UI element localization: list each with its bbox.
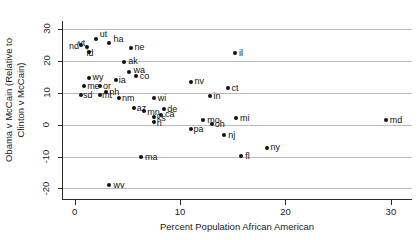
scatter-point-label: vt bbox=[78, 39, 85, 48]
x-axis-title: Percent Population African American bbox=[62, 221, 412, 232]
scatter-point bbox=[94, 37, 98, 41]
x-axis-line bbox=[62, 199, 412, 200]
scatter-point bbox=[114, 78, 118, 82]
scatter-point-label: nm bbox=[122, 94, 135, 103]
scatter-point-label: pa bbox=[194, 125, 204, 134]
scatter-point-label: ri bbox=[157, 119, 162, 128]
y-tick-label: 0 bbox=[40, 122, 51, 127]
scatter-point bbox=[142, 109, 146, 113]
scatter-point bbox=[265, 146, 269, 150]
scatter-point-label: ny bbox=[271, 143, 281, 152]
scatter-point bbox=[208, 94, 212, 98]
x-tick-mark bbox=[75, 200, 76, 205]
scatter-plot-figure: Obama v McCain (Relative to Clinton v Mc… bbox=[0, 0, 420, 240]
x-tick-mark bbox=[180, 200, 181, 205]
scatter-point-label: oh bbox=[215, 120, 225, 129]
scatter-point-label: wi bbox=[158, 94, 167, 103]
scatter-point bbox=[226, 86, 230, 90]
y-tick-mark bbox=[58, 29, 63, 30]
scatter-point-label: fl bbox=[245, 152, 250, 161]
scatter-point-label: ne bbox=[135, 43, 145, 52]
scatter-point bbox=[152, 115, 156, 119]
gridline-y bbox=[62, 125, 412, 126]
y-tick-mark bbox=[58, 157, 63, 158]
scatter-point-label: id bbox=[86, 49, 93, 58]
scatter-point-label: ha bbox=[113, 35, 123, 44]
x-tick-mark bbox=[285, 200, 286, 205]
scatter-point bbox=[152, 96, 156, 100]
scatter-point-label: nj bbox=[228, 131, 235, 140]
scatter-point-label: ct bbox=[232, 84, 239, 93]
scatter-point-label: ca bbox=[165, 110, 175, 119]
scatter-point bbox=[139, 155, 143, 159]
y-axis-title-line-1: Obama v McCain (Relative to bbox=[3, 38, 14, 162]
scatter-point bbox=[189, 127, 193, 131]
y-tick-label: -10 bbox=[40, 150, 51, 164]
scatter-point bbox=[222, 133, 226, 137]
scatter-point bbox=[134, 74, 138, 78]
y-axis-title: Obama v McCain (Relative to Clinton v Mc… bbox=[0, 0, 28, 200]
scatter-point bbox=[117, 96, 121, 100]
x-tick-label: 10 bbox=[165, 206, 195, 217]
scatter-point-label: il bbox=[239, 49, 243, 58]
y-tick-label: 10 bbox=[40, 87, 51, 98]
scatter-point-label: in bbox=[214, 92, 221, 101]
scatter-point-label: md bbox=[390, 116, 403, 125]
scatter-point bbox=[87, 76, 91, 80]
scatter-point-label: wv bbox=[113, 181, 124, 190]
x-tick-label: 20 bbox=[270, 206, 300, 217]
scatter-point-label: nv bbox=[195, 77, 205, 86]
y-tick-mark bbox=[58, 125, 63, 126]
scatter-point-label: co bbox=[140, 72, 150, 81]
scatter-point bbox=[98, 84, 102, 88]
scatter-point bbox=[122, 60, 126, 64]
y-tick-label: -20 bbox=[40, 182, 51, 196]
scatter-point-label: ma bbox=[145, 153, 158, 162]
scatter-point bbox=[82, 84, 86, 88]
y-tick-label: 20 bbox=[40, 56, 51, 67]
scatter-point-label: mt bbox=[102, 91, 112, 100]
gridline-y bbox=[62, 61, 412, 62]
scatter-point-label: ut bbox=[100, 30, 108, 39]
gridline-y bbox=[62, 157, 412, 158]
scatter-point bbox=[132, 106, 136, 110]
x-tick-mark bbox=[391, 200, 392, 205]
y-axis-title-line-2: Clinton v McCain) bbox=[15, 63, 26, 138]
scatter-point bbox=[210, 122, 214, 126]
y-tick-mark bbox=[58, 188, 63, 189]
scatter-point bbox=[189, 80, 193, 84]
plot-area: 3020100-10-20ndutvtidhaneakwacowyiameorn… bbox=[62, 21, 412, 198]
x-tick-label: 0 bbox=[60, 206, 90, 217]
gridline-y bbox=[62, 29, 412, 30]
y-tick-mark bbox=[58, 61, 63, 62]
scatter-point bbox=[201, 118, 205, 122]
scatter-point-label: ia bbox=[119, 76, 126, 85]
scatter-point bbox=[233, 51, 237, 55]
scatter-point-label: sd bbox=[83, 91, 93, 100]
scatter-point bbox=[234, 116, 238, 120]
x-tick-label: 30 bbox=[376, 206, 406, 217]
scatter-point bbox=[129, 46, 133, 50]
scatter-point-label: mi bbox=[240, 114, 250, 123]
scatter-point bbox=[107, 41, 111, 45]
scatter-point bbox=[127, 70, 131, 74]
y-tick-mark bbox=[58, 93, 63, 94]
scatter-point bbox=[107, 183, 111, 187]
y-tick-label: 30 bbox=[40, 24, 51, 35]
scatter-point bbox=[384, 118, 388, 122]
